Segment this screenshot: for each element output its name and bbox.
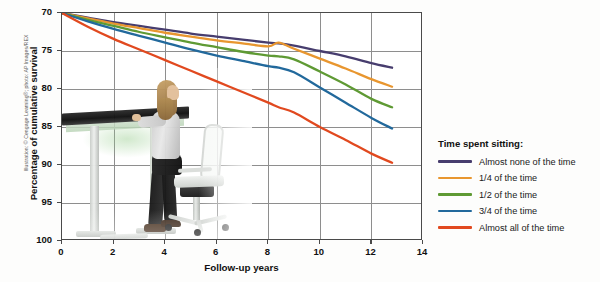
y-tick-label: 70: [26, 6, 52, 17]
legend-color-swatch: [438, 226, 472, 229]
x-tickmark: [370, 240, 371, 244]
y-tickmark: [57, 50, 61, 51]
legend-color-swatch: [438, 193, 472, 196]
y-tickmark: [57, 12, 61, 13]
x-tick-label: 6: [204, 246, 228, 257]
legend-item[interactable]: 1/2 of the time: [438, 189, 598, 200]
y-tick-label: 95: [26, 196, 52, 207]
plot-area: [61, 12, 422, 240]
x-tick-label: 12: [358, 246, 382, 257]
legend-color-swatch: [438, 177, 472, 180]
x-tickmark: [164, 240, 165, 244]
y-tick-label: 75: [26, 44, 52, 55]
x-tick-label: 4: [152, 246, 176, 257]
x-tickmark: [422, 240, 423, 244]
y-tick-label: 100: [26, 234, 52, 245]
legend-rows: Almost none of the time1/4 of the time1/…: [438, 156, 598, 233]
legend-item-label: 1/2 of the time: [479, 190, 537, 200]
y-tick-label: 80: [26, 82, 52, 93]
x-tickmark: [319, 240, 320, 244]
y-tickmark: [57, 126, 61, 127]
curve-1-2-of-the-time: [62, 13, 392, 107]
y-tickmark: [57, 88, 61, 89]
x-tickmark: [113, 240, 114, 244]
legend-item-label: Almost all of the time: [479, 223, 564, 233]
x-tick-label: 8: [255, 246, 279, 257]
curve-3-4-of-the-time: [62, 13, 392, 129]
x-tick-label: 0: [49, 246, 73, 257]
x-tickmark: [61, 240, 62, 244]
y-tickmark: [57, 164, 61, 165]
figure-container: Illustration: © Cengage Learning®; photo…: [0, 0, 600, 282]
x-tick-label: 2: [101, 246, 125, 257]
legend-title: Time spent sitting:: [438, 138, 598, 149]
y-tickmark: [57, 202, 61, 203]
legend-item[interactable]: 1/4 of the time: [438, 173, 598, 184]
legend-item[interactable]: 3/4 of the time: [438, 206, 598, 217]
legend: Time spent sitting: Almost none of the t…: [438, 138, 598, 239]
y-tickmark: [57, 240, 61, 241]
y-tick-label: 85: [26, 120, 52, 131]
legend-item-label: 1/4 of the time: [479, 173, 537, 183]
x-tick-label: 10: [307, 246, 331, 257]
x-tickmark: [216, 240, 217, 244]
survival-curves: [62, 13, 422, 240]
legend-item-label: Almost none of the time: [479, 157, 576, 167]
legend-item[interactable]: Almost all of the time: [438, 222, 598, 233]
curve-almost-all-of-the-time: [62, 13, 392, 163]
legend-item[interactable]: Almost none of the time: [438, 156, 598, 167]
legend-item-label: 3/4 of the time: [479, 206, 537, 216]
x-tickmark: [267, 240, 268, 244]
x-axis-title: Follow-up years: [61, 262, 422, 273]
legend-color-swatch: [438, 160, 472, 163]
legend-color-swatch: [438, 210, 472, 213]
x-tick-label: 14: [410, 246, 434, 257]
curve-almost-none-of-the-time: [62, 13, 392, 68]
y-tick-label: 90: [26, 158, 52, 169]
